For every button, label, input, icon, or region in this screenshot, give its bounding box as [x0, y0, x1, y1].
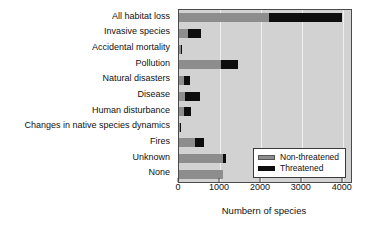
category-label: None [148, 168, 170, 177]
bar-segment-non-threatened [179, 138, 195, 147]
x-tick-label: 4000 [332, 182, 352, 192]
bar-segment-non-threatened [179, 13, 269, 22]
chart-legend: Non-threatened Threatened [253, 148, 346, 178]
x-tick-label: 0 [175, 182, 180, 192]
bar-segment-threatened [184, 107, 191, 116]
category-label: Pollution [135, 59, 170, 68]
bar-segment-non-threatened [179, 60, 221, 69]
bar-segment-threatened [184, 76, 190, 85]
bar-segment-non-threatened [179, 154, 223, 163]
category-label: Accidental mortality [92, 43, 170, 52]
x-axis-title: Numbern of species [178, 205, 350, 216]
bar-segment-threatened [181, 45, 182, 54]
black-swatch-icon [258, 166, 275, 171]
category-axis-labels: All habitat lossInvasive speciesAccident… [0, 9, 174, 181]
bar-segment-threatened [221, 60, 238, 69]
x-tick-label: 3000 [291, 182, 311, 192]
bar-chart-figure: All habitat lossInvasive speciesAccident… [0, 0, 386, 233]
bar-row [179, 123, 351, 132]
category-label: Changes in native species dynamics [24, 121, 170, 130]
category-label: Unknown [132, 153, 170, 162]
bar-row [179, 107, 351, 116]
category-label: Natural disasters [102, 74, 170, 83]
bar-row [179, 138, 351, 147]
category-label: Human disturbance [92, 106, 170, 115]
legend-label: Non-threatened [280, 153, 339, 162]
bar-segment-threatened [195, 138, 203, 147]
bar-row [179, 13, 351, 22]
gray-swatch-icon [258, 155, 275, 160]
bar-row [179, 92, 351, 101]
category-label: Disease [137, 90, 170, 99]
category-label: Fires [150, 137, 170, 146]
legend-item-threatened: Threatened [258, 163, 341, 174]
x-axis-ticks: 01000200030004000 [178, 182, 350, 198]
bar-row [179, 29, 351, 38]
category-label: All habitat loss [112, 12, 170, 21]
x-tick-label: 1000 [209, 182, 229, 192]
bar-segment-non-threatened [179, 29, 188, 38]
bar-row [179, 76, 351, 85]
bar-segment-threatened [269, 13, 342, 22]
bar-row [179, 60, 351, 69]
bar-segment-threatened [188, 29, 200, 38]
bar-segment-threatened [185, 92, 200, 101]
x-tick-label: 2000 [250, 182, 270, 192]
legend-item-non-threatened: Non-threatened [258, 152, 341, 163]
bar-segment-threatened [223, 154, 227, 163]
category-label: Invasive species [104, 27, 170, 36]
bar-segment-threatened [180, 123, 181, 132]
legend-label: Threatened [280, 164, 323, 173]
bar-row [179, 45, 351, 54]
bar-segment-non-threatened [179, 170, 223, 179]
